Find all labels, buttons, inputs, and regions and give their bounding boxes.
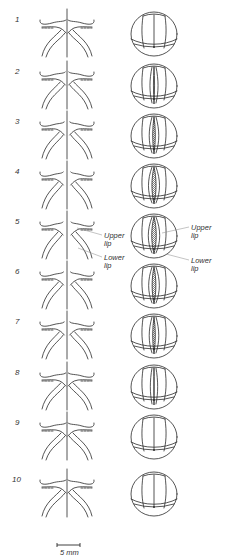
lower-arch-inner	[69, 493, 88, 517]
lower-arch-outer	[42, 232, 58, 258]
row-label-2: 2	[15, 67, 19, 76]
lower-arch-outer	[75, 332, 92, 358]
leader-line-right-lower	[166, 254, 189, 260]
annotation-text: lip	[104, 262, 124, 270]
upper-lip-contour	[40, 373, 66, 377]
upper-lip-contour	[70, 122, 94, 126]
left-lip-curve	[149, 267, 152, 303]
lower-arch-outer	[42, 82, 60, 108]
bottom-node	[153, 198, 155, 200]
scale-bar-label: 5 mm	[60, 548, 79, 557]
lower-arch-inner	[46, 493, 65, 517]
bottom-node	[153, 148, 155, 150]
lower-arch-inner	[46, 285, 63, 309]
upper-lip-contour	[40, 222, 63, 226]
right-lip-curve	[156, 117, 159, 153]
annotation-text: lip	[191, 265, 211, 273]
lower-arch-outer	[76, 232, 92, 258]
row-label-8: 8	[15, 368, 19, 377]
lower-arch-outer	[74, 82, 92, 108]
lower-arch-inner	[70, 85, 88, 109]
upper-lip-contour	[68, 423, 94, 427]
leader-line-left-lower	[78, 248, 102, 257]
row-label-7: 7	[15, 317, 19, 326]
right-lip-curve	[156, 368, 158, 404]
lower-arch-inner	[69, 33, 88, 57]
upper-lip-contour	[40, 423, 66, 427]
upper-lip-contour	[68, 480, 94, 484]
bottom-node	[153, 348, 155, 350]
lip-movement-figure: 1 2 3 4 5 6 7 8 9 10 Upper lip Lower lip…	[0, 0, 225, 557]
upper-lip-contour	[40, 122, 64, 126]
row-label-5: 5	[15, 217, 19, 226]
right-lip-curve	[156, 67, 158, 103]
annotation-left-upper-lip: Upper lip	[104, 232, 124, 248]
annotation-text: lip	[104, 240, 124, 248]
upper-lip-contour	[40, 172, 63, 176]
upper-lip-contour	[70, 322, 94, 326]
lower-arch-inner	[46, 335, 63, 359]
row-label-1: 1	[15, 15, 19, 24]
lower-arch-outer	[42, 30, 61, 56]
lower-arch-inner	[69, 386, 88, 410]
upper-lip-contour	[40, 272, 64, 276]
bottom-node	[153, 98, 155, 100]
row-label-10: 10	[12, 475, 21, 484]
annotation-left-lower-lip: Lower lip	[104, 254, 124, 270]
figure-drawing	[0, 0, 225, 557]
lower-arch-outer	[42, 383, 61, 409]
lower-arch-inner	[71, 335, 88, 359]
lower-arch-outer	[76, 282, 93, 308]
lower-arch-outer	[42, 433, 61, 459]
annotation-right-upper-lip: Upper lip	[191, 224, 211, 240]
bottom-node	[153, 298, 155, 300]
lower-arch-inner	[46, 436, 65, 460]
lower-arch-inner	[72, 285, 89, 309]
lower-arch-outer	[73, 30, 92, 56]
lower-arch-inner	[46, 85, 64, 109]
lower-arch-inner	[46, 235, 62, 259]
equator-arc	[131, 91, 177, 96]
lower-arch-inner	[71, 135, 88, 159]
bottom-node	[153, 449, 155, 451]
annotation-text: lip	[191, 232, 211, 240]
upper-lip-contour	[69, 72, 94, 76]
lower-arch-outer	[73, 490, 92, 516]
lower-arch-outer	[42, 282, 59, 308]
lower-arch-outer	[73, 383, 92, 409]
upper-lip-contour	[71, 272, 95, 276]
lower-arch-inner	[46, 135, 63, 159]
upper-lip-contour	[40, 322, 64, 326]
bottom-node	[153, 248, 155, 250]
row-label-3: 3	[15, 117, 19, 126]
lower-arch-inner	[46, 386, 65, 410]
upper-lip-contour	[68, 20, 94, 24]
left-lip-curve	[150, 368, 152, 404]
row-label-6: 6	[15, 267, 19, 276]
lower-arch-outer	[42, 132, 59, 158]
bottom-node	[153, 46, 155, 48]
lower-arch-inner	[46, 185, 62, 209]
bottom-node	[153, 399, 155, 401]
upper-lip-contour	[40, 20, 66, 24]
lower-arch-inner	[69, 436, 88, 460]
lower-arch-outer	[76, 182, 92, 208]
upper-lip-contour	[68, 373, 94, 377]
left-lip-curve	[149, 317, 152, 353]
annotation-right-lower-lip: Lower lip	[191, 257, 211, 273]
left-lip-curve	[150, 67, 152, 103]
lower-arch-outer	[42, 332, 59, 358]
lower-arch-outer	[75, 132, 92, 158]
lower-arch-outer	[42, 490, 61, 516]
upper-lip-contour	[71, 222, 94, 226]
upper-lip-contour	[40, 480, 66, 484]
right-lip-curve	[156, 317, 159, 353]
left-lip-curve	[149, 117, 152, 153]
right-lip-curve	[156, 267, 159, 303]
upper-lip-contour	[71, 172, 94, 176]
upper-lip-contour	[40, 72, 65, 76]
bottom-node	[153, 506, 155, 508]
row-label-4: 4	[15, 167, 19, 176]
lower-arch-inner	[46, 33, 65, 57]
lower-arch-inner	[72, 235, 88, 259]
